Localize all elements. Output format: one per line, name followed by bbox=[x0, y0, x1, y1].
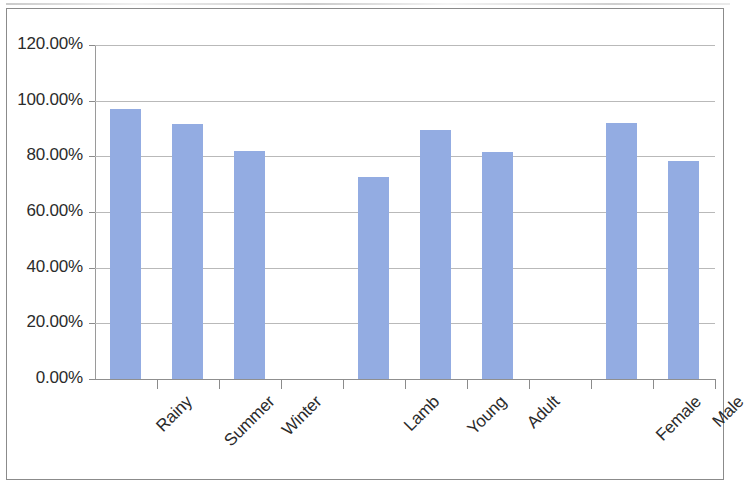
y-axis-tick-label: 120.00% bbox=[17, 34, 83, 54]
bar[interactable] bbox=[668, 161, 699, 379]
bar[interactable] bbox=[234, 151, 265, 379]
bar-slot bbox=[95, 45, 157, 379]
bar[interactable] bbox=[482, 152, 513, 379]
bar-slot bbox=[343, 45, 405, 379]
bar-slot bbox=[219, 45, 281, 379]
y-axis-tick-label: 0.00% bbox=[36, 368, 83, 388]
y-axis-tick-label: 20.00% bbox=[27, 312, 83, 332]
x-axis-tick-label: Young bbox=[464, 392, 511, 439]
y-axis-tick-label: 100.00% bbox=[17, 90, 83, 110]
x-axis-tick bbox=[157, 380, 158, 389]
bar[interactable] bbox=[358, 177, 389, 379]
bar-slot bbox=[405, 45, 467, 379]
x-axis-tick bbox=[529, 380, 530, 389]
x-axis-tick-label: Lamb bbox=[400, 392, 444, 436]
x-axis-tick bbox=[591, 380, 592, 389]
x-axis-tick-label: Adult bbox=[523, 392, 564, 433]
x-axis-tick bbox=[653, 380, 654, 389]
bar-slot bbox=[529, 45, 591, 379]
x-axis-tick-label: Winter bbox=[278, 392, 326, 440]
x-axis-tick bbox=[467, 380, 468, 389]
x-axis-tick bbox=[715, 380, 716, 389]
plot-area bbox=[95, 45, 715, 379]
bar-slot bbox=[157, 45, 219, 379]
x-axis-labels: RainySummerWinterLambYoungAdultFemaleMal… bbox=[95, 392, 716, 489]
bar[interactable] bbox=[110, 109, 141, 379]
bar-slot bbox=[281, 45, 343, 379]
x-axis-tick-label: Male bbox=[709, 392, 748, 432]
y-axis-tick-label: 40.00% bbox=[27, 257, 83, 277]
bar[interactable] bbox=[420, 130, 451, 379]
x-axis-tick bbox=[405, 380, 406, 389]
x-axis-tick bbox=[219, 380, 220, 389]
bar-slot bbox=[467, 45, 529, 379]
x-axis-tick-label: Female bbox=[652, 392, 705, 445]
x-axis-tick-label: Rainy bbox=[152, 392, 196, 436]
bar[interactable] bbox=[606, 123, 637, 379]
y-axis-labels: 0.00%20.00%40.00%60.00%80.00%100.00%120.… bbox=[7, 45, 83, 379]
chart-frame: 0.00%20.00%40.00%60.00%80.00%100.00%120.… bbox=[6, 8, 724, 480]
scan-edge-artifact bbox=[6, 3, 730, 5]
bar-slot bbox=[653, 45, 715, 379]
bar[interactable] bbox=[172, 124, 203, 379]
x-axis-tick bbox=[281, 380, 282, 389]
y-axis-tick-label: 60.00% bbox=[27, 201, 83, 221]
bar-slot bbox=[591, 45, 653, 379]
y-axis-tick-label: 80.00% bbox=[27, 145, 83, 165]
x-axis-tick bbox=[343, 380, 344, 389]
x-axis-tick-label: Summer bbox=[220, 392, 279, 451]
